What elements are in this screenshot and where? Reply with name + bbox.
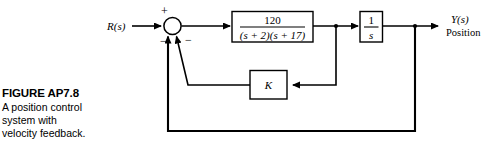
plant-numerator: 120 [264,14,281,26]
summing-junction [164,17,181,34]
figure-caption-line-2: system with [2,114,110,127]
figure-caption: FIGURE AP7.8 A position control system w… [2,86,110,140]
output-sublabel-position: Position [446,27,481,38]
plant-denominator: (s + 2)(s + 17) [240,29,306,42]
figure-caption-body: A position control system with velocity … [2,101,110,140]
output-label-ys: Y(s) [451,13,469,26]
input-label-rs: R(s) [106,20,126,33]
integrator-numerator: 1 [368,14,374,26]
figure-caption-line-3: velocity feedback. [2,127,110,140]
sum-sign-minus-inner: − [185,33,192,47]
figure-caption-title: FIGURE AP7.8 [2,86,110,100]
figure-container: R(s) + − − 120 (s + 2)(s + 17) 1 s Y(s) … [0,0,500,151]
integrator-denominator: s [369,29,373,41]
gain-block-k-label: K [264,79,273,91]
figure-caption-line-1: A position control [2,101,110,114]
sum-sign-plus: + [161,4,168,18]
sum-sign-minus-outer: − [160,34,167,48]
